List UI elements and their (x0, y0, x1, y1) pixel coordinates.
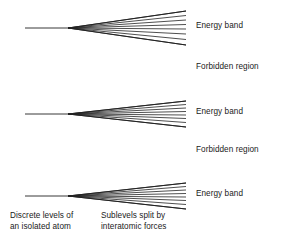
caption-sublevels-split: Sublevels split by interatomic forces (101, 211, 167, 232)
caption-discrete-levels-line1: Discrete levels of (10, 211, 73, 222)
caption-discrete-levels: Discrete levels of an isolated atom (10, 211, 73, 232)
caption-discrete-levels-line2: an isolated atom (10, 222, 73, 233)
sublevel-line-2-7 (68, 114, 186, 123)
forbidden-region-label-1: Forbidden region (196, 62, 259, 72)
sublevel-line-1-3 (68, 20, 186, 28)
forbidden-region-label-2: Forbidden region (196, 145, 259, 155)
energy-band-group-2 (25, 101, 186, 127)
energy-band-label-2: Energy band (196, 107, 243, 117)
energy-band-group-1 (25, 11, 186, 45)
sublevel-line-1-7 (68, 28, 186, 40)
energy-band-group-3 (25, 183, 186, 209)
caption-sublevels-split-line2: interatomic forces (101, 222, 167, 233)
energy-band-label-3: Energy band (196, 189, 243, 199)
band-envelope-top-1 (68, 11, 186, 28)
energy-band-label-1: Energy band (196, 21, 243, 31)
caption-sublevels-split-line1: Sublevels split by (101, 211, 167, 222)
band-envelope-bottom-1 (68, 28, 186, 45)
band-diagram-svg (0, 0, 283, 246)
sublevel-line-3-7 (68, 196, 186, 205)
